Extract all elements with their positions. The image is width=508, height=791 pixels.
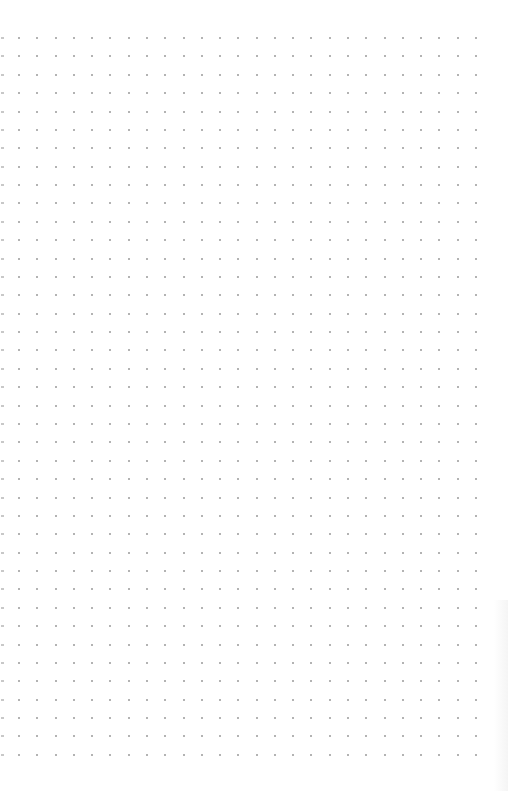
- grid-dot: [109, 386, 111, 388]
- grid-dot: [457, 423, 459, 425]
- grid-dot: [402, 644, 404, 646]
- grid-dot: [55, 754, 57, 756]
- grid-dot: [365, 478, 367, 480]
- grid-dot: [420, 625, 422, 627]
- grid-dot: [55, 497, 57, 499]
- dot-grid: [0, 0, 508, 791]
- grid-dot: [402, 441, 404, 443]
- grid-dot: [164, 184, 166, 186]
- grid-dot: [365, 92, 367, 94]
- grid-dot: [73, 184, 75, 186]
- grid-dot: [365, 754, 367, 756]
- grid-dot: [292, 368, 294, 370]
- grid-dot: [18, 111, 20, 113]
- edge-mark: [1, 349, 4, 351]
- grid-dot: [420, 55, 422, 57]
- grid-dot: [237, 662, 239, 664]
- grid-dot: [347, 699, 349, 701]
- grid-dot: [18, 460, 20, 462]
- grid-dot: [201, 74, 203, 76]
- grid-dot: [18, 239, 20, 241]
- grid-dot: [128, 441, 130, 443]
- grid-dot: [73, 754, 75, 756]
- edge-mark: [1, 166, 4, 168]
- grid-dot: [310, 588, 312, 590]
- grid-dot: [402, 92, 404, 94]
- edge-mark: [1, 55, 4, 57]
- grid-dot: [109, 331, 111, 333]
- grid-dot: [91, 166, 93, 168]
- grid-dot: [438, 460, 440, 462]
- grid-dot: [256, 349, 258, 351]
- grid-dot: [36, 423, 38, 425]
- grid-dot: [183, 754, 185, 756]
- grid-dot: [292, 570, 294, 572]
- grid-dot: [310, 478, 312, 480]
- grid-dot: [438, 239, 440, 241]
- grid-dot: [384, 37, 386, 39]
- grid-dot: [329, 588, 331, 590]
- grid-dot: [256, 147, 258, 149]
- grid-dot: [91, 588, 93, 590]
- grid-dot: [274, 37, 276, 39]
- grid-dot: [183, 239, 185, 241]
- grid-dot: [256, 239, 258, 241]
- grid-dot: [384, 368, 386, 370]
- grid-dot: [365, 717, 367, 719]
- grid-dot: [73, 349, 75, 351]
- grid-dot: [384, 515, 386, 517]
- grid-dot: [219, 147, 221, 149]
- grid-dot: [402, 570, 404, 572]
- grid-dot: [91, 497, 93, 499]
- grid-dot: [475, 460, 477, 462]
- grid-dot: [347, 754, 349, 756]
- grid-dot: [55, 423, 57, 425]
- grid-dot: [164, 552, 166, 554]
- grid-dot: [329, 625, 331, 627]
- grid-dot: [384, 533, 386, 535]
- grid-dot: [402, 349, 404, 351]
- grid-dot: [256, 386, 258, 388]
- grid-dot: [55, 294, 57, 296]
- grid-dot: [128, 497, 130, 499]
- grid-dot: [219, 588, 221, 590]
- grid-dot: [438, 313, 440, 315]
- grid-dot: [256, 515, 258, 517]
- grid-dot: [457, 221, 459, 223]
- grid-dot: [73, 331, 75, 333]
- grid-dot: [164, 92, 166, 94]
- grid-dot: [18, 607, 20, 609]
- grid-dot: [73, 239, 75, 241]
- grid-dot: [329, 258, 331, 260]
- grid-dot: [365, 662, 367, 664]
- grid-dot: [365, 570, 367, 572]
- edge-mark: [1, 276, 4, 278]
- grid-dot: [146, 368, 148, 370]
- grid-dot: [109, 129, 111, 131]
- grid-dot: [438, 147, 440, 149]
- grid-dot: [164, 405, 166, 407]
- grid-dot: [36, 147, 38, 149]
- grid-dot: [457, 754, 459, 756]
- grid-dot: [347, 607, 349, 609]
- grid-dot: [73, 662, 75, 664]
- grid-dot: [347, 37, 349, 39]
- grid-dot: [310, 276, 312, 278]
- grid-dot: [347, 349, 349, 351]
- grid-dot: [457, 570, 459, 572]
- grid-dot: [329, 74, 331, 76]
- grid-dot: [365, 625, 367, 627]
- grid-dot: [310, 74, 312, 76]
- grid-dot: [384, 111, 386, 113]
- grid-dot: [365, 460, 367, 462]
- grid-dot: [475, 735, 477, 737]
- grid-dot: [457, 552, 459, 554]
- grid-dot: [310, 662, 312, 664]
- grid-dot: [164, 166, 166, 168]
- grid-dot: [164, 258, 166, 260]
- edge-mark: [1, 552, 4, 554]
- grid-dot: [36, 717, 38, 719]
- grid-dot: [274, 276, 276, 278]
- grid-dot: [91, 368, 93, 370]
- grid-dot: [329, 717, 331, 719]
